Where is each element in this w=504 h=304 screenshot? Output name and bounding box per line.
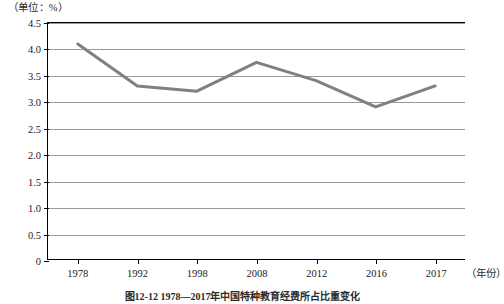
x-axis-tick-label: 1998	[187, 268, 208, 280]
figure-caption: 图12-12 1978—2017年中国特种教育经费所占比重变化	[0, 290, 485, 303]
y-axis-tick-label: 1.5	[28, 176, 41, 187]
y-axis-tick-label: 1.0	[28, 203, 41, 214]
data-series-svg	[48, 23, 465, 259]
plot-area: 00.51.01.52.02.53.03.54.04.5 （年份） 197819…	[47, 22, 465, 260]
x-axis-tick-label: 1978	[67, 268, 88, 280]
y-axis-tick-label: 2.0	[28, 150, 41, 161]
y-axis-tick-label: 4.0	[28, 44, 41, 55]
y-axis-tick-label: 3.0	[28, 97, 41, 108]
x-axis-tick-label: 2016	[366, 268, 387, 280]
y-axis-tick-label: 4.5	[28, 18, 41, 29]
y-axis-tick-label: 2.5	[28, 123, 41, 134]
y-axis-tick-label: 0.5	[28, 229, 41, 240]
x-axis-tick-label: 2017	[426, 268, 447, 280]
x-axis-unit-label: （年份）	[466, 268, 504, 280]
y-axis-tick-label: 0	[36, 256, 41, 267]
x-axis-labels-group: （年份） 1978199219982008201220162017	[48, 259, 465, 281]
series-line-占比	[78, 44, 435, 107]
x-axis-tick-label: 2012	[306, 268, 327, 280]
y-axis-tick-label: 3.5	[28, 70, 41, 81]
x-axis-tick-label: 1992	[127, 268, 148, 280]
x-axis-tick-label: 2008	[247, 268, 268, 280]
y-axis-unit-label: （单位：%）	[8, 1, 68, 15]
